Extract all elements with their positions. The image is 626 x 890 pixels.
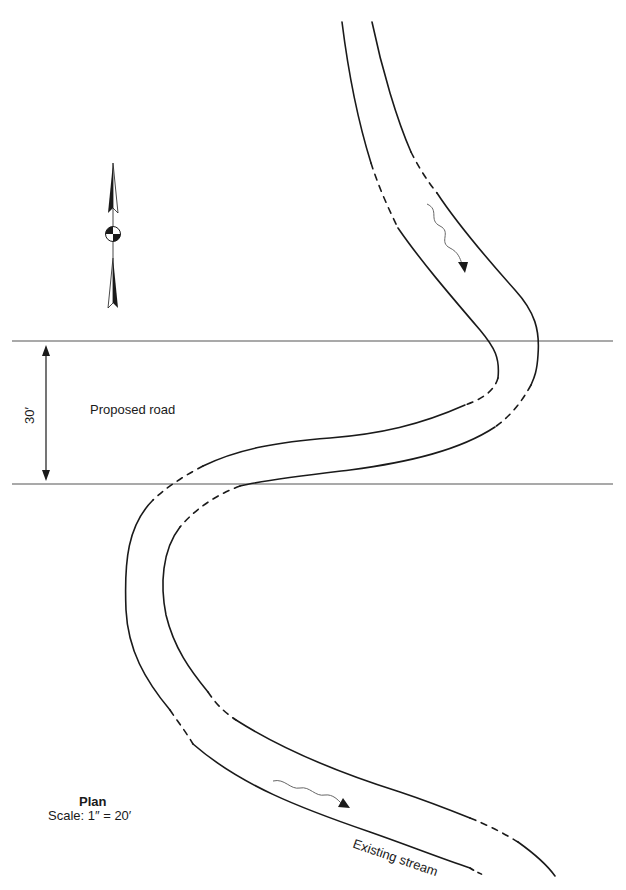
north-arrow-icon — [106, 163, 121, 308]
stream-bank-right — [163, 22, 555, 876]
flow-arrow-icon — [273, 781, 350, 808]
stream-bank-left — [126, 22, 499, 876]
road-label: Proposed road — [90, 402, 175, 417]
plan-scale: Scale: 1″ = 20′ — [48, 808, 131, 823]
plan-drawing — [0, 0, 626, 890]
plan-title: Plan — [79, 794, 106, 809]
flow-arrow-icon — [427, 204, 468, 273]
road-width-dimension — [42, 345, 50, 481]
road-width-label: 30′ — [22, 407, 37, 424]
